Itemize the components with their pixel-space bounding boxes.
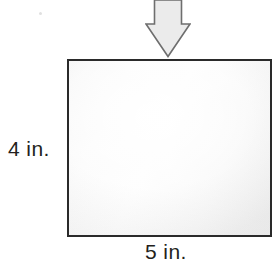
height-dimension-label: 4 in. bbox=[8, 138, 50, 159]
figure-canvas: 4 in. 5 in. bbox=[0, 0, 278, 265]
down-arrow-icon bbox=[145, 0, 191, 58]
rectangle-shape bbox=[67, 59, 272, 237]
scan-speck-artifact bbox=[39, 12, 42, 15]
width-dimension-label: 5 in. bbox=[145, 241, 187, 262]
down-arrow-glyph bbox=[145, 0, 191, 58]
